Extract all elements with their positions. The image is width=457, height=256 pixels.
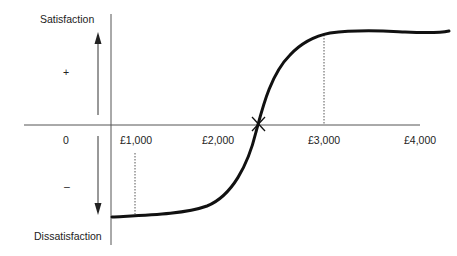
zero-label: 0: [63, 135, 69, 146]
minus-label: –: [64, 181, 70, 192]
x-tick-3000: £3,000: [308, 135, 340, 146]
satisfaction-diagram: [0, 0, 457, 256]
satisfaction-curve: [112, 31, 449, 217]
dissatisfaction-label: Dissatisfaction: [34, 231, 102, 242]
arrow-up-icon: [95, 32, 102, 44]
x-tick-4000: £4,000: [404, 135, 436, 146]
satisfaction-label: Satisfaction: [40, 14, 94, 25]
x-tick-2000: £2,000: [202, 135, 234, 146]
arrow-down-icon: [95, 203, 102, 215]
plus-label: +: [63, 67, 69, 78]
x-tick-1000: £1,000: [120, 135, 152, 146]
